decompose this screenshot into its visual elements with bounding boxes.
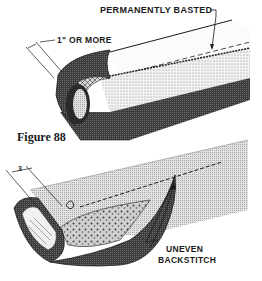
figure-caption: Figure 88 [17,130,66,145]
sewing-figure: PERMANENTLY BASTED 1" OR MORE Figure 88 … [0,0,262,281]
permanently-basted-label: PERMANENTLY BASTED [100,5,212,15]
dimension-label: 3 [18,164,22,174]
backstitch-label: BACKSTITCH [158,255,216,265]
uneven-label: UNEVEN [166,244,203,254]
top-illustration [26,10,250,140]
bottom-illustration [6,140,248,266]
width-label: 1" OR MORE [57,35,112,45]
